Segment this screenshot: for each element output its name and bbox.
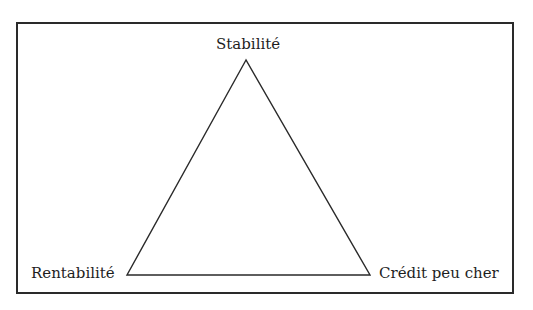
vertex-label-top: Stabilité xyxy=(216,37,280,52)
vertex-label-bottom-right: Crédit peu cher xyxy=(379,266,499,281)
vertex-label-bottom-left: Rentabilité xyxy=(31,266,115,281)
